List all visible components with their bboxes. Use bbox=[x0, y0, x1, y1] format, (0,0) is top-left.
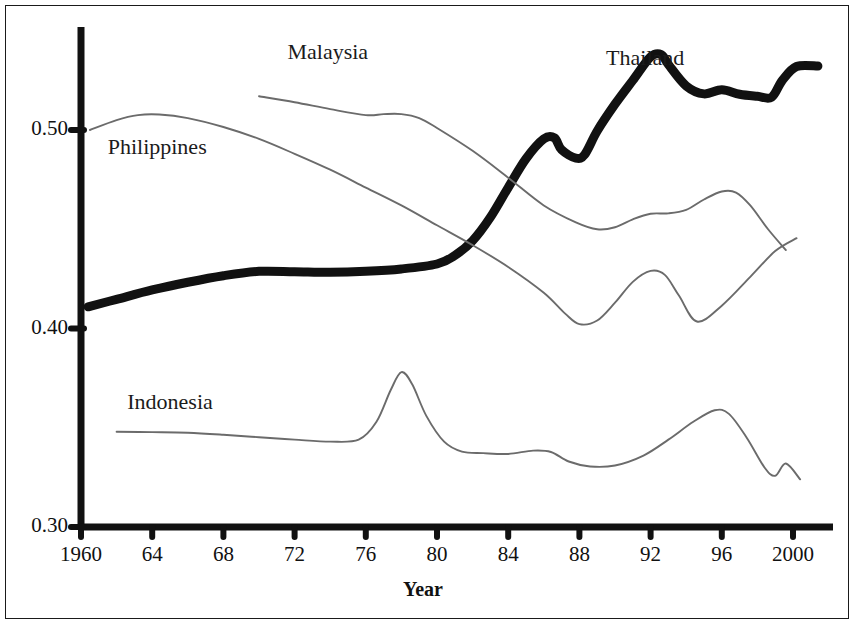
y-tick-label-0.30: 0.30 bbox=[0, 513, 68, 538]
series-lines bbox=[88, 54, 818, 480]
series-line-thailand bbox=[88, 54, 818, 307]
series-label-indonesia: Indonesia bbox=[127, 389, 213, 415]
figure: 0.300.400.50 19606468727680848892962000 … bbox=[0, 0, 854, 624]
y-tick-label-0.40: 0.40 bbox=[0, 315, 68, 340]
series-label-malaysia: Malaysia bbox=[287, 39, 368, 65]
series-label-philippines: Philippines bbox=[108, 134, 207, 160]
chart-plot-area bbox=[0, 0, 854, 624]
series-line-indonesia bbox=[117, 372, 801, 479]
y-tick-label-0.50: 0.50 bbox=[0, 116, 68, 141]
x-tick-label-2000: 2000 bbox=[748, 542, 838, 567]
series-label-thailand: Thailand bbox=[606, 45, 684, 71]
x-axis-title: Year bbox=[403, 578, 443, 601]
